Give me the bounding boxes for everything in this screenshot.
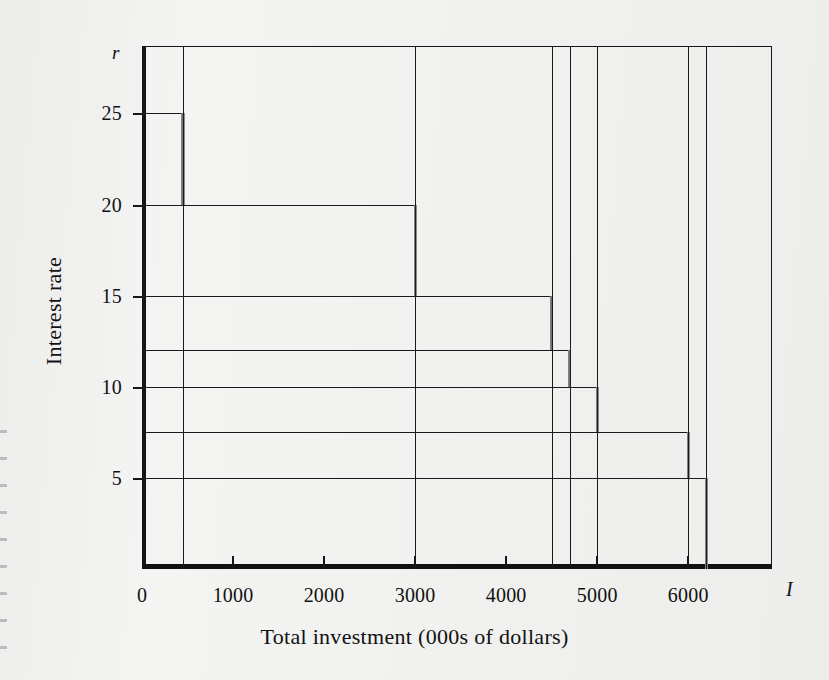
y-tick-mark (133, 205, 142, 207)
y-tick-label: 15 (64, 286, 122, 306)
x-axis-title: Total investment (000s of dollars) (0, 624, 829, 650)
x-tick-mark (687, 556, 689, 569)
y-tick-label: 5 (64, 468, 122, 488)
drop-line-mask (594, 46, 601, 387)
x-tick-label: 4000 (486, 585, 527, 605)
y-tick-label: 10 (64, 377, 122, 397)
x-tick-label: 3000 (395, 585, 436, 605)
investment-demand-chart: r I Total investment (000s of dollars) I… (0, 0, 829, 680)
drop-line-mask (549, 46, 556, 296)
x-tick-mark (232, 556, 234, 569)
drop-line-mask (412, 46, 419, 205)
drop-line-mask (685, 46, 692, 432)
x-tick-label: 6000 (668, 585, 709, 605)
y-tick-label: 20 (64, 195, 122, 215)
drop-line-mask (567, 46, 574, 350)
x-tick-mark (414, 556, 416, 569)
step-tread (142, 296, 552, 297)
plot-frame (142, 46, 772, 569)
drop-line-mask (180, 46, 187, 113)
y-tick-mark (133, 113, 142, 115)
y-tick-mark (133, 478, 142, 480)
step-tread (142, 113, 183, 114)
x-tick-label: 1000 (213, 585, 254, 605)
x-tick-mark (505, 556, 507, 569)
x-axis-symbol: I (786, 578, 793, 601)
x-tick-mark (596, 556, 598, 569)
drop-line (183, 46, 184, 569)
x-tick-label: 0 (137, 585, 147, 605)
y-tick-label: 25 (64, 103, 122, 123)
y-axis-symbol: r (112, 42, 119, 64)
drop-line-mask (703, 46, 710, 478)
x-tick-mark (323, 556, 325, 569)
y-tick-mark (133, 387, 142, 389)
x-tick-label: 2000 (304, 585, 345, 605)
step-tread (142, 350, 570, 351)
step-tread (142, 478, 706, 479)
x-tick-label: 5000 (577, 585, 618, 605)
y-tick-mark (133, 296, 142, 298)
step-tread (142, 387, 597, 388)
